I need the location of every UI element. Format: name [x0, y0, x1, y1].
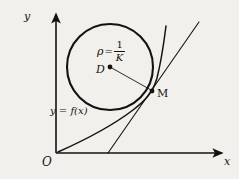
- x-axis-label: x: [224, 156, 230, 167]
- center-dot: [108, 65, 113, 70]
- tangency-dot: [150, 89, 155, 94]
- radius-of-curvature-label: ρ = 1 K: [97, 40, 125, 63]
- curve-label: y = f(x): [50, 106, 88, 116]
- y-axis-label: y: [24, 11, 30, 22]
- one-over-k-fraction: 1 K: [114, 40, 125, 63]
- rho-symbol: ρ: [97, 45, 103, 58]
- circle-center-label: D: [96, 64, 105, 75]
- tangency-point-label: M: [157, 88, 168, 99]
- radius-segment-dm: [110, 67, 151, 90]
- equals-sign: =: [104, 46, 112, 57]
- fraction-denominator: K: [114, 52, 125, 63]
- fraction-numerator: 1: [114, 40, 124, 51]
- origin-label: O: [42, 156, 52, 168]
- curvature-diagram: [0, 0, 239, 179]
